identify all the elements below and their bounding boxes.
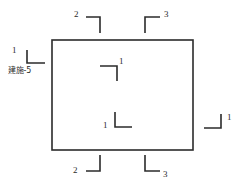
mark-bottom-left (86, 155, 100, 171)
mark-interior-upper-number: 1 (119, 57, 124, 66)
floor-plan-drawing (0, 0, 242, 188)
mark-bottom-left-number: 2 (73, 166, 78, 175)
mark-right (204, 114, 221, 128)
mark-bottom-right-number: 3 (163, 170, 168, 179)
mark-left (27, 50, 45, 63)
drawing-canvas: 23112311 建施-5 (0, 0, 242, 188)
mark-top-right-number: 3 (164, 10, 169, 19)
mark-interior-upper (100, 66, 117, 81)
mark-top-left (86, 17, 100, 33)
mark-right-number: 1 (227, 113, 232, 122)
mark-top-left-number: 2 (74, 10, 79, 19)
mark-interior-lower (115, 112, 132, 127)
mark-interior-lower-number: 1 (103, 121, 108, 130)
mark-bottom-right (145, 155, 160, 171)
mark-left-number: 1 (12, 46, 17, 55)
sheet-reference-label: 建施-5 (8, 67, 31, 75)
mark-top-right (145, 17, 160, 33)
